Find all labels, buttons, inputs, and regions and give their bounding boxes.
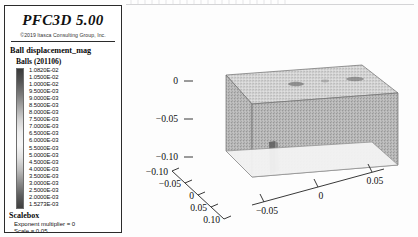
colorbar-tick-label: 5.0000E-03 bbox=[29, 152, 121, 159]
application-title: PFC3D 5.00 bbox=[5, 12, 121, 29]
y-tick-label-0: −0.05 bbox=[256, 205, 278, 216]
colorbar-tick-label: 2.0000E-03 bbox=[29, 194, 121, 201]
colorbar-tick-label: 8.0000E-03 bbox=[29, 109, 121, 116]
z-tick-label-0: 0 bbox=[173, 75, 178, 86]
z-axis-ticks bbox=[184, 81, 193, 157]
colorbar-tick-labels: 1.0820E-021.0500E-021.0000E-029.5000E-03… bbox=[29, 67, 121, 208]
x-tick-label-1: −0.05 bbox=[159, 178, 181, 189]
x-tick-label-2: 0 bbox=[189, 190, 194, 201]
x-tick-label-0: −0.10 bbox=[146, 166, 168, 177]
displacement-patch-c bbox=[321, 80, 329, 83]
colorbar-gradient bbox=[16, 68, 24, 209]
x-tick-label-4: 0.10 bbox=[203, 214, 220, 225]
colorbar-tick-label: 6.0000E-03 bbox=[29, 137, 121, 144]
colorbar-tick-label: 7.0000E-03 bbox=[29, 123, 121, 130]
color-scale: 1.0820E-021.0500E-021.0000E-029.5000E-03… bbox=[5, 68, 121, 210]
scalebox-exponent-multiplier: Exponent multiplier = 0 bbox=[14, 221, 121, 227]
displacement-patch-a bbox=[288, 82, 304, 86]
colorbar-tick-label: 4.0000E-03 bbox=[29, 166, 121, 173]
legend-panel: PFC3D 5.00 ©2019 Itasca Consulting Group… bbox=[4, 5, 122, 233]
pfc3d-render-window: PFC3D 5.00 ©2019 Itasca Consulting Group… bbox=[0, 0, 418, 237]
colorbar-tick-label: 2.5000E-03 bbox=[29, 187, 121, 194]
z-tick-label-2: −0.10 bbox=[156, 151, 178, 162]
colorbar-tick-label: 1.0000E-02 bbox=[29, 81, 121, 88]
legend-title: Ball displacement_mag bbox=[10, 46, 121, 55]
copyright-notice: ©2019 Itasca Consulting Group, Inc. bbox=[5, 32, 121, 38]
colorbar-tick-label: 9.5000E-03 bbox=[29, 88, 121, 95]
scalebox-scale: Scale = 0.05 bbox=[14, 228, 121, 233]
scalebox-heading: Scalebox bbox=[9, 211, 121, 220]
colorbar-tick-label: 1.5273E-03 bbox=[29, 201, 121, 208]
colorbar-tick-label: 6.5000E-03 bbox=[29, 130, 121, 137]
colorbar-tick-label: 4.5000E-03 bbox=[29, 159, 121, 166]
plot-area[interactable]: 0 −0.05 −0.10 −0.10 −0.05 0 0.05 0.10 bbox=[126, 5, 414, 233]
colorbar-tick-label: 3.0000E-03 bbox=[29, 180, 121, 187]
colorbar-tick-label: 8.5000E-03 bbox=[29, 102, 121, 109]
colorbar-tick-label: 1.0820E-02 bbox=[29, 67, 121, 74]
displacement-patch-b bbox=[346, 77, 364, 81]
colorbar-tick-label: 3.5000E-03 bbox=[29, 173, 121, 180]
x-tick-label-3: 0.05 bbox=[190, 202, 207, 213]
colorbar-tick-label: 7.5000E-03 bbox=[29, 116, 121, 123]
y-tick-label-2: 0.05 bbox=[367, 175, 384, 186]
colorbar-tick-label: 1.0500E-02 bbox=[29, 74, 121, 81]
plot-svg: 0 −0.05 −0.10 −0.10 −0.05 0 0.05 0.10 bbox=[126, 5, 414, 233]
legend-divider bbox=[11, 41, 115, 42]
colorbar-tick-label: 5.5000E-03 bbox=[29, 145, 121, 152]
colorbar-tick-label: 9.0000E-03 bbox=[29, 95, 121, 102]
y-tick-label-1: 0 bbox=[319, 190, 324, 201]
z-tick-label-1: −0.05 bbox=[156, 113, 178, 124]
legend-subtitle: Balls (201106) bbox=[16, 57, 121, 66]
